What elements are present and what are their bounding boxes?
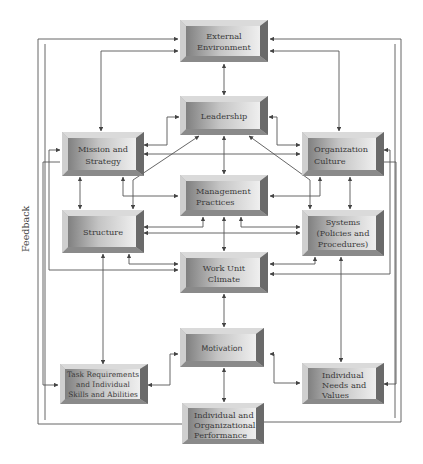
box-label: Organization	[314, 144, 369, 154]
box-label: and Individual	[76, 380, 130, 389]
box-label: Climate	[208, 274, 240, 284]
box-external-environment: External Environment	[180, 20, 268, 62]
box-label: Individual	[322, 370, 364, 380]
box-label: Task Requirements	[67, 370, 139, 379]
box-label: Work Unit	[203, 263, 246, 273]
box-label: Values	[321, 390, 349, 400]
box-management-practices: Management Practices	[180, 175, 268, 216]
burke-litwin-model-diagram: External Environment Leadership Mission …	[0, 0, 423, 464]
box-label: Management	[196, 186, 251, 196]
box-label: Practices	[196, 197, 234, 207]
box-structure: Structure	[62, 210, 144, 253]
box-label: Performance	[194, 430, 247, 440]
box-leadership: Leadership	[180, 96, 268, 135]
feedback-label: Feedback	[20, 206, 31, 252]
box-work-unit-climate: Work Unit Climate	[180, 252, 268, 293]
box-label: Motivation	[201, 344, 242, 353]
box-systems: Systems (Policies and Procedures)	[302, 210, 384, 256]
box-individual-and-organizational-performance: Individual and Organizational Performanc…	[182, 403, 264, 444]
box-label: Organizational	[194, 420, 256, 430]
box-label: Environment	[197, 42, 251, 52]
box-mission-and-strategy: Mission and Strategy	[62, 132, 144, 176]
box-label: Leadership	[201, 111, 248, 121]
box-label: Skills and Abilities	[68, 390, 138, 399]
box-organization-culture: Organization Culture	[302, 132, 384, 176]
box-label: Systems	[326, 217, 361, 227]
box-task-requirements: Task Requirements and Individual Skills …	[60, 364, 148, 404]
box-label: Needs and	[322, 380, 366, 390]
box-label: (Policies and	[317, 228, 370, 238]
box-label: Individual and	[194, 410, 254, 420]
box-label: Procedures)	[318, 239, 368, 249]
box-label: Strategy	[85, 156, 121, 166]
box-label: Mission and	[78, 144, 128, 154]
box-motivation: Motivation	[180, 328, 264, 367]
box-label: Structure	[83, 227, 123, 237]
box-individual-needs-and-values: Individual Needs and Values	[302, 363, 384, 404]
box-label: Culture	[314, 156, 346, 166]
box-label: External	[206, 31, 242, 41]
